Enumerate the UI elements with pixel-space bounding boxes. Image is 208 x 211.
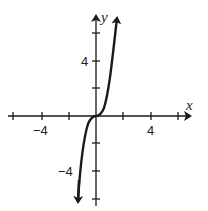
cubic-graph: y x −4 4 4 −4 <box>0 0 208 211</box>
y-tick-label-4: 4 <box>81 54 88 69</box>
y-tick-label-neg4: −4 <box>58 164 73 179</box>
curve-bottom-arrow <box>78 180 79 202</box>
x-axis-label: x <box>185 97 193 113</box>
x-tick-label-4: 4 <box>147 123 154 138</box>
cubic-curve <box>78 18 117 200</box>
y-axis-label: y <box>99 9 108 25</box>
x-tick-label-neg4: −4 <box>33 123 48 138</box>
